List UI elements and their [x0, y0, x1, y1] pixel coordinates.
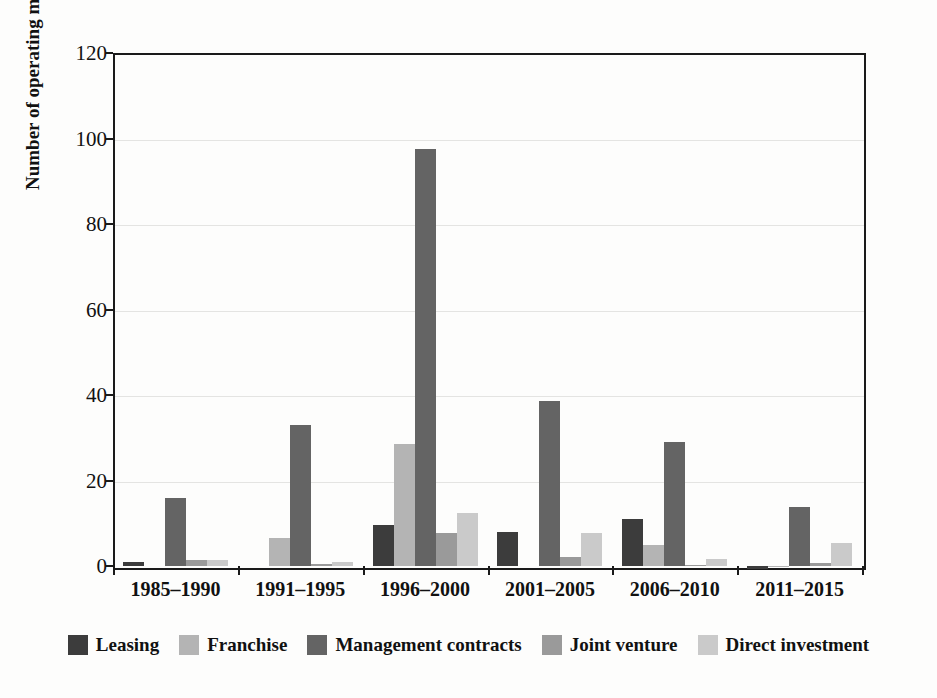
- y-axis-tick-label: 0: [59, 556, 107, 577]
- x-axis-tick-mark: [488, 566, 490, 575]
- y-axis-title: Number of operating modes: [18, 0, 48, 190]
- x-axis-tick-mark: [238, 566, 240, 575]
- bar[interactable]: [186, 560, 207, 566]
- y-axis-tick-mark: [105, 394, 113, 396]
- x-axis-tick-label: 1991–1995: [255, 578, 345, 601]
- bar[interactable]: [560, 557, 581, 566]
- bar[interactable]: [123, 562, 144, 566]
- x-axis-tick-mark: [862, 566, 864, 575]
- bar[interactable]: [831, 543, 852, 566]
- bar[interactable]: [768, 566, 789, 567]
- legend-swatch-icon: [307, 635, 327, 655]
- legend-item[interactable]: Management contracts: [307, 634, 521, 656]
- bar[interactable]: [394, 444, 415, 566]
- y-axis-tick-labels: 020406080100120: [57, 53, 107, 566]
- bar[interactable]: [165, 498, 186, 566]
- chart-figure: Number of operating modes 02040608010012…: [0, 0, 937, 698]
- bar[interactable]: [207, 560, 228, 566]
- x-axis-tick-label: 2001–2005: [505, 578, 595, 601]
- bar[interactable]: [810, 563, 831, 566]
- legend-item[interactable]: Direct investment: [698, 634, 870, 656]
- chart-legend: LeasingFranchiseManagement contractsJoin…: [0, 634, 937, 656]
- legend-item[interactable]: Franchise: [179, 634, 287, 656]
- bar-group: [488, 53, 613, 566]
- legend-label: Management contracts: [335, 634, 521, 656]
- legend-swatch-icon: [179, 635, 199, 655]
- bar[interactable]: [373, 525, 394, 566]
- bar[interactable]: [332, 562, 353, 566]
- bar[interactable]: [436, 533, 457, 566]
- bar[interactable]: [643, 545, 664, 566]
- bar-group: [238, 53, 363, 566]
- y-axis-tick-mark: [105, 565, 113, 567]
- bar-group: [113, 53, 238, 566]
- bar[interactable]: [581, 533, 602, 566]
- bar[interactable]: [457, 513, 478, 566]
- bar[interactable]: [789, 507, 810, 566]
- legend-swatch-icon: [68, 635, 88, 655]
- y-axis-tick-label: 60: [59, 299, 107, 320]
- y-axis-tick-label: 80: [59, 214, 107, 235]
- legend-label: Joint venture: [570, 634, 678, 656]
- bar-groups: [113, 53, 862, 566]
- legend-label: Franchise: [207, 634, 287, 656]
- x-axis-tick-label: 1985–1990: [130, 578, 220, 601]
- bar[interactable]: [311, 564, 332, 566]
- y-axis-tick-label: 20: [59, 470, 107, 491]
- y-axis-tick-label: 100: [59, 128, 107, 149]
- y-axis-tick-mark: [105, 223, 113, 225]
- y-axis-tick-mark: [105, 480, 113, 482]
- bar[interactable]: [685, 565, 706, 566]
- y-axis-tick-mark: [105, 138, 113, 140]
- x-axis-tick-mark: [612, 566, 614, 575]
- y-axis-tick-label: 120: [59, 43, 107, 64]
- bar[interactable]: [706, 559, 727, 566]
- y-axis-tick-label: 40: [59, 385, 107, 406]
- y-axis-tick-mark: [105, 52, 113, 54]
- legend-label: Leasing: [96, 634, 159, 656]
- bar[interactable]: [415, 149, 436, 566]
- x-axis-tick-mark: [363, 566, 365, 575]
- y-axis-tick-mark: [105, 309, 113, 311]
- x-axis-tick-label: 2006–2010: [630, 578, 720, 601]
- legend-swatch-icon: [698, 635, 718, 655]
- x-axis-tick-label: 2011–2015: [755, 578, 844, 601]
- legend-swatch-icon: [542, 635, 562, 655]
- legend-label: Direct investment: [726, 634, 870, 656]
- bar[interactable]: [290, 425, 311, 566]
- bar[interactable]: [747, 566, 768, 569]
- bar[interactable]: [497, 532, 518, 566]
- x-axis-tick-label: 1996–2000: [380, 578, 470, 601]
- bar-group: [363, 53, 488, 566]
- legend-item[interactable]: Joint venture: [542, 634, 678, 656]
- legend-item[interactable]: Leasing: [68, 634, 159, 656]
- bar[interactable]: [622, 519, 643, 566]
- x-axis-tick-mark: [737, 566, 739, 575]
- bar-group: [612, 53, 737, 566]
- bar-group: [737, 53, 862, 566]
- bar[interactable]: [664, 442, 685, 566]
- bar[interactable]: [539, 401, 560, 566]
- bar[interactable]: [269, 538, 290, 566]
- x-axis-tick-mark: [113, 566, 115, 575]
